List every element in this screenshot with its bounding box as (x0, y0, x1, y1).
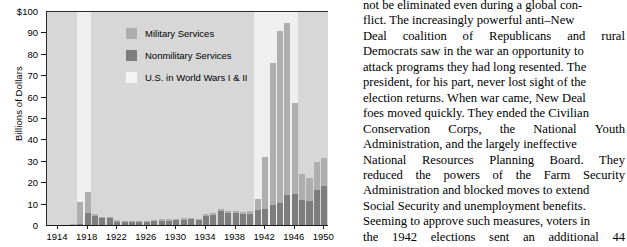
body-text-line: DealcoalitionofRepublicansandrural (363, 29, 625, 44)
x-axis-ticks: 1914191819221926193019341938194219461950 (46, 226, 328, 247)
body-text-line: the1942electionssentanadditional44 (363, 230, 625, 245)
bar-group (240, 212, 246, 226)
y-tick-label: $100 (17, 6, 38, 17)
bar-segment-nonmilitary (292, 194, 298, 226)
body-text-line: election returns. When war came, New Dea… (363, 91, 625, 106)
body-text-column: not be eliminated even during a global c… (363, 0, 625, 247)
x-tick-label: 1918 (76, 231, 97, 242)
bar-group (77, 202, 83, 226)
y-tick-label: 40 (27, 134, 38, 145)
chart-legend: Military Services Nonmilitary Services U… (126, 24, 316, 90)
x-tick-mark (87, 226, 88, 229)
body-text-line: Social Security and unemployment benefit… (363, 199, 625, 214)
bar-group (233, 211, 239, 226)
x-tick-mark (175, 226, 176, 229)
y-tick-label: 90 (27, 27, 38, 38)
body-text-line: president, for his part, never lost sigh… (363, 75, 625, 90)
body-text-line: attack programs they had long resented. … (363, 60, 625, 75)
legend-label-military: Military Services (145, 28, 214, 39)
bar-group (247, 211, 253, 226)
bar-segment-nonmilitary (284, 195, 290, 226)
bar-segment-nonmilitary (321, 186, 327, 226)
bar-segment-nonmilitary (218, 211, 224, 226)
legend-item-nonmilitary: Nonmilitary Services (126, 46, 316, 64)
legend-swatch-nonmilitary-icon (126, 50, 137, 61)
bar-group (314, 162, 320, 226)
bar-segment-nonmilitary (277, 203, 283, 226)
body-paragraph: not be eliminated even during a global c… (363, 0, 625, 245)
x-tick-label: 1950 (313, 231, 334, 242)
bar-segment-military (262, 157, 268, 209)
y-tick-label: 20 (27, 177, 38, 188)
bar-segment-nonmilitary (270, 205, 276, 226)
body-text-line: Democrats saw in the war an opportunity … (363, 44, 625, 59)
bar-segment-nonmilitary (314, 190, 320, 226)
bar-segment-military (255, 199, 261, 210)
x-tick-label: 1946 (283, 231, 304, 242)
bar-segment-nonmilitary (225, 213, 231, 226)
body-text-line: Administration and blocked moves to exte… (363, 183, 625, 198)
x-tick-label: 1942 (254, 231, 275, 242)
bar-segment-military (299, 174, 305, 201)
bar-group (85, 192, 91, 226)
y-axis-ticks: 0102030405060708090$100 (0, 0, 46, 247)
bar-segment-nonmilitary (299, 200, 305, 226)
legend-swatch-wars-icon (126, 72, 137, 83)
legend-label-nonmilitary: Nonmilitary Services (145, 50, 232, 61)
bar-segment-military (321, 158, 327, 187)
bar-group (255, 199, 261, 226)
bar-segment-military (292, 103, 298, 194)
y-tick-label: 80 (27, 48, 38, 59)
x-tick-label: 1930 (165, 231, 186, 242)
legend-swatch-military-icon (126, 28, 137, 39)
y-tick-label: 70 (27, 70, 38, 81)
body-text-line: Administration, and the largely ineffect… (363, 137, 625, 152)
bar-segment-military (77, 202, 83, 224)
bar-segment-military (85, 192, 91, 212)
bar-group (321, 158, 327, 226)
body-text-line: flict. The increasingly powerful anti–Ne… (363, 13, 625, 28)
x-tick-mark (264, 226, 265, 229)
bar-segment-nonmilitary (233, 213, 239, 226)
x-tick-label: 1926 (135, 231, 156, 242)
legend-label-wars: U.S. in World Wars I & II (145, 72, 247, 83)
body-text-line: Seeming to approve such measures, voters… (363, 214, 625, 229)
x-tick-mark (205, 226, 206, 229)
y-tick-label: 60 (27, 91, 38, 102)
bar-segment-nonmilitary (262, 209, 268, 226)
body-text-line: foes moved quickly. They ended the Civil… (363, 106, 625, 121)
body-text-line: not be eliminated even during a global c… (363, 0, 625, 13)
x-tick-mark (294, 226, 295, 229)
x-tick-label: 1938 (224, 231, 245, 242)
bar-segment-military (314, 162, 320, 189)
body-text-line: reducedthepowersoftheFarmSecurity (363, 168, 625, 183)
x-tick-mark (57, 226, 58, 229)
bar-segment-nonmilitary (255, 210, 261, 226)
x-tick-mark (235, 226, 236, 229)
x-tick-mark (323, 226, 324, 229)
bar-group (306, 178, 312, 226)
bar-segment-military (306, 178, 312, 201)
x-tick-label: 1934 (194, 231, 215, 242)
y-tick-label: 50 (27, 113, 38, 124)
y-tick-label: 30 (27, 155, 38, 166)
bar-group (299, 174, 305, 226)
y-tick-label: 0 (33, 220, 38, 231)
x-tick-mark (116, 226, 117, 229)
x-tick-label: 1922 (106, 231, 127, 242)
bar-segment-nonmilitary (85, 213, 91, 226)
bar-group (218, 209, 224, 226)
x-tick-mark (146, 226, 147, 229)
body-text-line: NationalResourcesPlanningBoard.They (363, 153, 625, 168)
legend-item-military: Military Services (126, 24, 316, 42)
bar-group (262, 157, 268, 226)
body-text-line: ConservationCorps,theNationalYouth (363, 122, 625, 137)
legend-item-wars: U.S. in World Wars I & II (126, 68, 316, 86)
x-tick-label: 1914 (47, 231, 68, 242)
federal-spending-chart: Billions of Dollars 0102030405060708090$… (0, 0, 352, 247)
bar-group (225, 211, 231, 226)
y-tick-label: 10 (27, 198, 38, 209)
bar-group (292, 103, 298, 226)
bar-segment-nonmilitary (306, 201, 312, 226)
